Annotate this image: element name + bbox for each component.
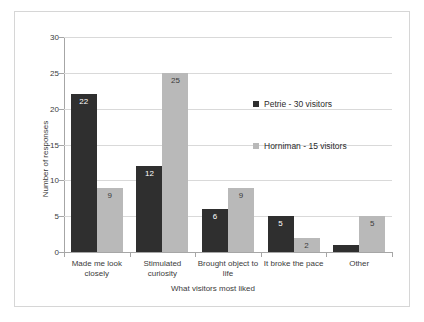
x-axis-category-label-line: life [187, 269, 269, 279]
bar: 22 [71, 94, 97, 252]
bar-value-label: 9 [228, 191, 254, 200]
bar: 9 [97, 188, 123, 253]
x-axis-tick [392, 252, 393, 257]
x-axis-tick [195, 252, 196, 257]
bar-group: 1225 [130, 37, 196, 252]
x-axis-title: What visitors most liked [15, 284, 411, 293]
x-axis-category-label-line: Other [318, 259, 400, 269]
legend-item: Petrie - 30 visitors [253, 98, 347, 110]
legend-item: Horniman - 15 visitors [253, 140, 347, 152]
gridline [64, 252, 392, 253]
bar-value-label: 5 [359, 219, 385, 228]
legend-label: Petrie - 30 visitors [264, 99, 332, 109]
y-axis-tick-label: 20 [21, 104, 59, 113]
y-axis-tick-label: 0 [21, 248, 59, 257]
bar: 5 [268, 216, 294, 252]
legend-swatch-icon [253, 101, 259, 107]
y-axis-title: Number of responses [41, 121, 50, 197]
x-axis-tick [64, 252, 65, 257]
x-axis-tick [130, 252, 131, 257]
bar: 5 [359, 216, 385, 252]
bar: 2 [294, 238, 320, 252]
bar: 12 [136, 166, 162, 252]
bar-value-label: 25 [162, 76, 188, 85]
legend-swatch-icon [253, 143, 259, 149]
bar-value-label: 5 [268, 219, 294, 228]
bar-value-label: 22 [71, 97, 97, 106]
bar-value-label: 2 [294, 241, 320, 250]
bar-group: 69 [195, 37, 261, 252]
y-axis-tick-label: 5 [21, 212, 59, 221]
bar-value-label: 6 [202, 212, 228, 221]
bar-value-label: 9 [97, 191, 123, 200]
bar-group: 229 [64, 37, 130, 252]
x-axis-tick [326, 252, 327, 257]
legend-label: Horniman - 15 visitors [264, 141, 347, 151]
x-axis-tick [261, 252, 262, 257]
chart-frame: 051015202530 Number of responses 2291225… [14, 11, 410, 307]
bar-value-label: 12 [136, 169, 162, 178]
y-axis-tick-label: 25 [21, 68, 59, 77]
bar: 25 [162, 73, 188, 252]
y-axis-tick-label: 30 [21, 33, 59, 42]
bar: 9 [228, 188, 254, 253]
y-axis-tick-labels: 051015202530 [15, 12, 59, 306]
bar [333, 245, 359, 252]
x-axis-category-label: Other [318, 259, 400, 269]
bar: 6 [202, 209, 228, 252]
chart-legend: Petrie - 30 visitorsHorniman - 15 visito… [253, 98, 347, 182]
